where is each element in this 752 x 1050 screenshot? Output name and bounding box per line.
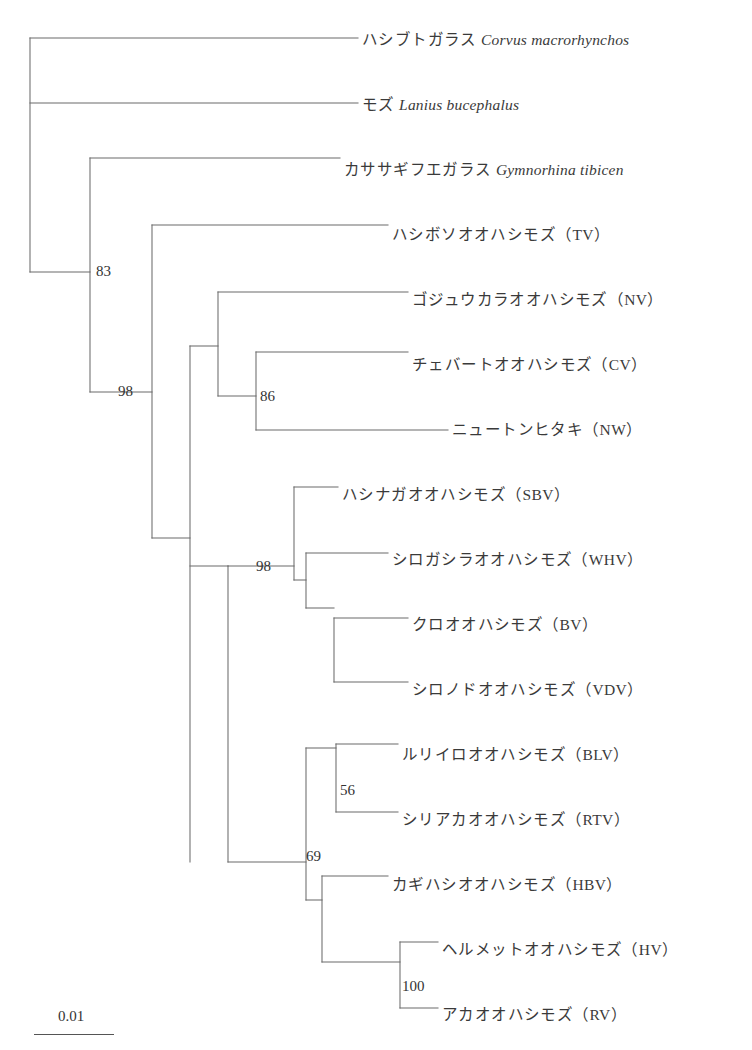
- tip-label-jp-whv: シロガシラオオハシモズ（WHV）: [392, 551, 643, 568]
- phylogenetic-tree-figure: ハシブトガラス Corvus macrorhynchosモズ Lanius bu…: [0, 0, 752, 1050]
- tip-label-blv: ルリイロオオハシモズ（BLV）: [402, 742, 630, 764]
- scale-bar-label: 0.01: [58, 1008, 84, 1025]
- tip-label-jp-sbv: ハシナガオオハシモズ（SBV）: [342, 486, 570, 503]
- tip-label-corvus: ハシブトガラス Corvus macrorhynchos: [362, 27, 629, 49]
- bootstrap-value-b56: 56: [340, 782, 355, 799]
- tip-label-jp-nv: ゴジュウカラオオハシモズ（NV）: [412, 291, 664, 308]
- tip-label-jp-blv: ルリイロオオハシモズ（BLV）: [402, 746, 630, 763]
- tip-label-jp-rv: アカオオハシモズ（RV）: [442, 1006, 627, 1023]
- tip-label-jp-gymno: カササギフエガラス: [344, 161, 496, 178]
- tip-label-nv: ゴジュウカラオオハシモズ（NV）: [412, 287, 664, 309]
- tip-label-whv: シロガシラオオハシモズ（WHV）: [392, 547, 643, 569]
- tip-label-hv: ヘルメットオオハシモズ（HV）: [442, 937, 678, 959]
- bootstrap-value-b100: 100: [402, 978, 425, 995]
- tip-label-hbv: カギハシオオハシモズ（HBV）: [392, 872, 623, 894]
- tip-label-sci-corvus: Corvus macrorhynchos: [481, 31, 629, 48]
- bootstrap-value-b98a: 98: [118, 383, 133, 400]
- scale-bar-rule: [34, 1034, 114, 1035]
- tip-label-jp-hv: ヘルメットオオハシモズ（HV）: [442, 941, 678, 958]
- tip-label-nw: ニュートンヒタキ（NW）: [452, 417, 643, 439]
- tip-label-gymno: カササギフエガラス Gymnorhina tibicen: [344, 157, 624, 179]
- tip-label-vdv: シロノドオオハシモズ（VDV）: [412, 677, 644, 699]
- tip-label-jp-bv: クロオオハシモズ（BV）: [412, 616, 598, 633]
- bootstrap-value-b86: 86: [260, 388, 275, 405]
- tip-label-jp-vdv: シロノドオオハシモズ（VDV）: [412, 681, 644, 698]
- tip-label-jp-tv: ハシボソオオハシモズ（TV）: [392, 226, 610, 243]
- tip-label-rtv: シリアカオオハシモズ（RTV）: [402, 807, 630, 829]
- tip-label-tv: ハシボソオオハシモズ（TV）: [392, 222, 610, 244]
- tip-label-jp-cv: チェバートオオハシモズ（CV）: [412, 356, 648, 373]
- tip-label-cv: チェバートオオハシモズ（CV）: [412, 352, 648, 374]
- bootstrap-value-b98b: 98: [256, 558, 271, 575]
- tip-label-jp-nw: ニュートンヒタキ（NW）: [452, 421, 643, 438]
- tip-label-jp-rtv: シリアカオオハシモズ（RTV）: [402, 811, 630, 828]
- tip-label-jp-corvus: ハシブトガラス: [362, 31, 481, 48]
- tip-label-jp-hbv: カギハシオオハシモズ（HBV）: [392, 876, 623, 893]
- tip-label-lanius: モズ Lanius bucephalus: [362, 92, 519, 114]
- tip-label-jp-lanius: モズ: [362, 96, 399, 113]
- tip-label-sci-gymno: Gymnorhina tibicen: [496, 161, 624, 178]
- bootstrap-value-b83: 83: [96, 263, 111, 280]
- tip-label-rv: アカオオハシモズ（RV）: [442, 1002, 627, 1024]
- scale-bar: 0.01: [34, 1008, 174, 1044]
- bootstrap-value-b69: 69: [306, 848, 321, 865]
- tip-label-sbv: ハシナガオオハシモズ（SBV）: [342, 482, 570, 504]
- tip-label-bv: クロオオハシモズ（BV）: [412, 612, 598, 634]
- tip-label-sci-lanius: Lanius bucephalus: [399, 96, 519, 113]
